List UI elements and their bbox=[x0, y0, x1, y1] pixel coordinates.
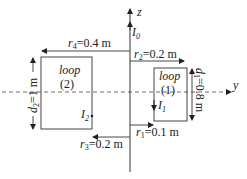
loop-1-word: loop bbox=[159, 69, 180, 83]
r1-label: r1=0.1 m bbox=[136, 125, 179, 140]
r4-label: r4=0.4 m bbox=[68, 36, 111, 51]
loop-1-number: (1) bbox=[161, 83, 175, 97]
d1-label: d1=0.8 m bbox=[192, 68, 207, 113]
loop-2-current-label: I2 bbox=[80, 107, 89, 123]
r3-label: r3=0.2 m bbox=[80, 137, 123, 152]
loop-2-word: loop bbox=[59, 63, 80, 77]
loop-2-number: (2) bbox=[60, 77, 74, 91]
loop-1-current-label: I1 bbox=[157, 98, 166, 114]
d2-label: d2=1 m bbox=[26, 77, 41, 113]
r2-label: r2=0.2 m bbox=[134, 47, 177, 62]
magnetic-loops-diagram: y z I0 loop (2) I2 loop (1) I1 r4=0.4 m … bbox=[0, 0, 247, 179]
loop-2-current-dot bbox=[91, 115, 94, 118]
y-axis-label: y bbox=[232, 78, 239, 92]
z-axis-label: z bbox=[136, 5, 142, 19]
wire-current-label: I0 bbox=[131, 25, 140, 41]
